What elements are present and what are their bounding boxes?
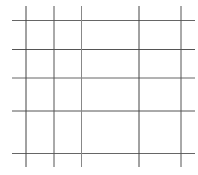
grid-diagram bbox=[0, 0, 198, 175]
horizontal-grid-lines bbox=[12, 21, 195, 154]
vertical-grid-lines bbox=[26, 6, 181, 167]
